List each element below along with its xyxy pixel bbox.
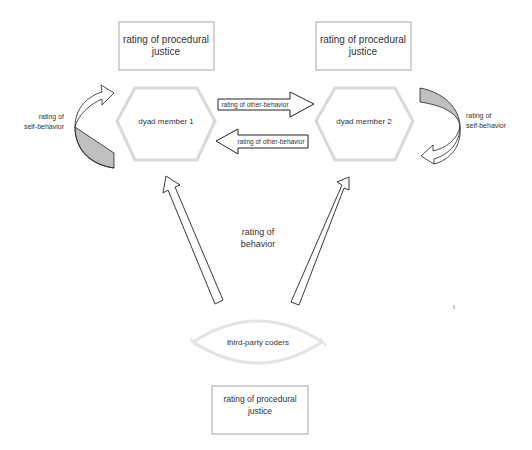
self-behavior-curved-arrow-right: rating of self-behavior <box>420 88 507 164</box>
third-party-coders-node: third-party coders <box>190 321 326 363</box>
self-behavior-right-label-line2: self-behavior <box>466 122 507 129</box>
box-label-line2: justice <box>348 46 378 57</box>
dyad-member-2-node: dyad member 2 <box>316 88 413 160</box>
other-behavior-arrow-left: rating of other-behavior <box>216 129 308 154</box>
third-party-coders-label: third-party coders <box>227 338 289 347</box>
behavior-arrow-to-member1 <box>163 176 223 304</box>
box-label-line1: rating of procedural <box>123 34 209 45</box>
self-behavior-left-label-line2: self-behavior <box>24 123 65 130</box>
box-label-line2: justice <box>247 406 272 416</box>
self-behavior-curved-arrow-left: rating of self-behavior <box>24 85 114 168</box>
box-label-line1: rating of procedural <box>223 394 296 404</box>
other-behavior-right-label: rating of other-behavior <box>221 101 289 109</box>
dyad-member-2-label: dyad member 2 <box>336 117 392 126</box>
other-behavior-left-label: rating of other-behavior <box>237 138 305 146</box>
box-label-line2: justice <box>151 46 181 57</box>
behavior-label-line1: rating of <box>242 227 275 237</box>
behavior-arrow-to-member2 <box>291 177 349 305</box>
self-behavior-right-label-line1: rating of <box>466 112 491 120</box>
dyad-member-1-label: dyad member 1 <box>138 117 194 126</box>
self-behavior-left-label-line1: rating of <box>39 113 64 121</box>
procedural-justice-box-coders: rating of procedural justice <box>212 386 308 434</box>
diagram-canvas: rating of procedural justice rating of p… <box>0 0 532 450</box>
box-label-line1: rating of procedural <box>320 34 406 45</box>
other-behavior-arrow-right: rating of other-behavior <box>218 92 314 117</box>
dyad-member-1-node: dyad member 1 <box>117 88 215 160</box>
behavior-label-line2: behavior <box>241 239 276 249</box>
procedural-justice-box-member1: rating of procedural justice <box>119 22 214 70</box>
stray-mark <box>453 305 455 309</box>
procedural-justice-box-member2: rating of procedural justice <box>316 22 411 70</box>
